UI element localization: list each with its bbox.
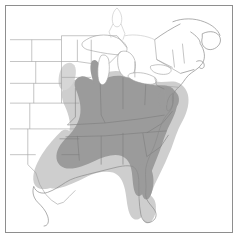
canada-river-1 xyxy=(121,24,125,40)
canada-border-east xyxy=(125,35,155,40)
figure-title: Distribution map of eastern United State… xyxy=(0,0,1,1)
texas-gulf-coastline xyxy=(33,186,48,226)
gulf-of-st-lawrence xyxy=(173,19,221,36)
ne-line-3 xyxy=(182,44,184,64)
long-island xyxy=(180,69,194,73)
canada-features-layer xyxy=(109,8,155,40)
nova-scotia xyxy=(202,32,221,50)
cape-cod xyxy=(196,61,204,69)
ne-line-2 xyxy=(173,50,175,68)
map-canvas xyxy=(6,6,232,232)
st-lawrence-river xyxy=(155,24,181,40)
canada-lake-1 xyxy=(112,8,121,27)
maine-coastline xyxy=(190,32,200,44)
distribution-map-figure: Distribution map of eastern United State… xyxy=(0,0,245,240)
map-frame xyxy=(5,5,233,233)
